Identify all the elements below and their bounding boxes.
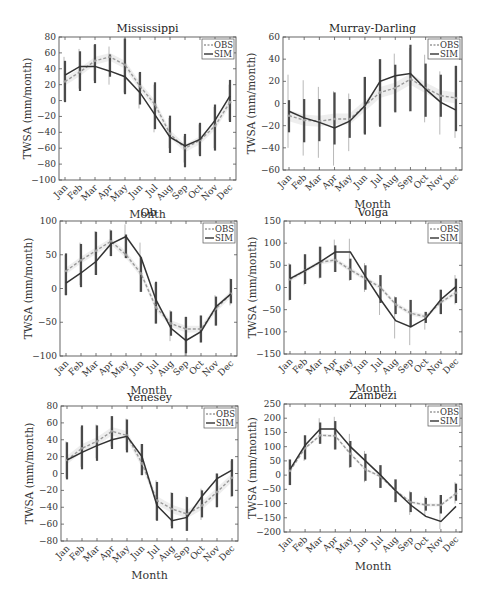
obs-marker [409,501,412,504]
x-tick-label: Jun [351,534,370,553]
y-axis-label: TWSA (mm/month) [246,237,258,339]
obs-marker [80,259,83,262]
y-tick-label: 0 [52,469,58,479]
obs-marker [394,303,397,306]
chart-ob: Ob100500−50−100JanFebMarAprMayJunJulAugS… [22,206,237,397]
obs-marker [65,270,68,273]
legend-sim-label: SIM [215,233,233,243]
y-tick-label: −80 [39,536,58,546]
y-axis-label: TWSA (mm/month) [245,53,257,155]
obs-marker [111,430,114,433]
y-tick-label: −50 [38,317,57,327]
chart-murray-darling: Murray-Darling6040200−20−40−60JanFebMarA… [245,22,462,211]
y-tick-label: −80 [37,159,56,169]
obs-marker [140,272,143,275]
x-tick-label: Dec [215,182,235,202]
y-tick-label: 60 [45,48,57,58]
legend: OBSSIM [428,39,460,59]
obs-marker [94,60,97,63]
x-tick-label: Dec [441,172,461,192]
figure-canvas: Mississippi806040200−20−40−60−80−100JanF… [0,0,487,593]
y-tick-label: 250 [264,399,281,409]
y-tick-label: 0 [275,470,281,480]
y-tick-label: 60 [269,32,281,42]
y-tick-label: 100 [264,238,281,248]
obs-marker [319,434,322,437]
legend-sim-label: SIM [214,49,232,59]
y-tick-label: 20 [47,452,59,462]
obs-marker [110,240,113,243]
y-tick-label: −50 [262,484,281,494]
obs-marker [440,504,443,507]
y-tick-label: −20 [39,485,58,495]
legend-sim-label: SIM [440,233,458,243]
obs-marker [288,114,291,117]
y-axis-label: TWSA (mm/month) [23,423,35,525]
y-axis-label: TWSA (mm/month) [22,238,34,340]
obs-marker [109,56,112,59]
obs-marker [154,103,157,106]
y-tick-label: 80 [47,401,59,411]
obs-marker [184,147,187,150]
obs-marker [201,504,204,507]
chart-title: Ob [140,206,156,219]
legend-sim-label: SIM [440,416,458,426]
y-tick-label: 150 [264,427,281,437]
y-tick-label: 50 [46,250,58,260]
legend: OBSSIM [428,406,460,426]
obs-marker [229,101,232,104]
obs-marker [349,268,352,271]
obs-marker [95,249,98,252]
y-tick-label: 0 [51,284,57,294]
legend: OBSSIM [202,39,234,59]
legend: OBSSIM [204,408,236,428]
x-axis-label: Month [131,569,167,582]
chart-mississippi: Mississippi806040200−20−40−60−80−100JanF… [21,22,236,221]
obs-marker [455,97,458,100]
y-tick-label: −60 [37,143,56,153]
obs-marker [425,504,428,507]
x-tick-label: Jun [351,356,370,375]
y-tick-label: −200 [256,527,281,537]
y-tick-label: 50 [270,456,282,466]
obs-marker [96,440,99,443]
y-tick-label: 100 [264,442,281,452]
y-tick-label: −60 [261,165,280,175]
y-tick-label: 40 [269,54,281,64]
y-tick-label: 0 [274,99,280,109]
obs-marker [170,322,173,325]
chart-title: Yenesey [126,391,173,404]
y-tick-label: −50 [262,305,281,315]
chart-volga: Volga150100500−50−100−150JanFebMarAprMay… [246,206,462,395]
y-tick-label: 20 [45,80,57,90]
legend: OBSSIM [203,223,235,243]
y-tick-label: −20 [261,121,280,131]
obs-marker [409,78,412,81]
x-tick-label: Dec [217,543,237,563]
x-tick-label: Dec [441,356,461,376]
obs-marker [231,476,234,479]
chart-title: Mississippi [117,22,179,35]
obs-marker [124,64,127,67]
y-tick-label: 20 [269,76,281,86]
y-tick-label: −40 [39,502,58,512]
chart-yenesey: Yenesey806040200−20−40−60−80JanFebMarApr… [23,391,238,582]
obs-line [290,435,456,505]
obs-uncertainty-band [66,238,231,333]
sim-line [290,429,456,521]
y-tick-label: −40 [261,143,280,153]
x-tick-label: Jun [127,358,146,377]
obs-marker [333,118,336,121]
sim-line [67,436,232,520]
legend-sim-label: SIM [440,49,458,59]
obs-marker [334,435,337,438]
obs-marker [289,470,292,473]
chart-title: Zambezi [349,389,397,402]
obs-marker [155,306,158,309]
y-tick-label: −100 [256,499,281,509]
y-tick-label: 80 [45,32,57,42]
y-tick-label: −60 [39,519,58,529]
y-tick-label: −100 [32,351,57,361]
obs-marker [216,491,219,494]
chart-grid: Mississippi806040200−20−40−60−80−100JanF… [21,22,462,582]
